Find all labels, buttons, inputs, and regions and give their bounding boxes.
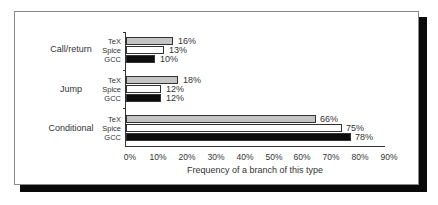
bar-call-return-spice [126,46,164,54]
value-label: 18% [183,76,201,85]
x-tick-label: 40% [230,152,260,162]
bar-chart: Call/return Jump Conditional TeX Spice G… [0,0,438,205]
bar-call-return-gcc [126,55,155,63]
x-tick-label: 90% [374,152,404,162]
series-label-gcc: GCC [81,55,121,64]
value-label: 12% [166,94,184,103]
x-tick-label: 0% [115,152,145,162]
x-tick-label: 30% [201,152,231,162]
x-tick-label: 60% [287,152,317,162]
x-tick-label: 80% [345,152,375,162]
x-tick-label: 10% [143,152,173,162]
series-label-spice: Spice [81,46,121,55]
y-axis-tick [123,108,126,109]
series-label-gcc: GCC [81,94,121,103]
x-axis-title: Frequency of a branch of this type [125,165,385,175]
series-label-spice: Spice [81,85,121,94]
bar-jump-spice [126,85,161,93]
x-tick-label: 70% [316,152,346,162]
series-label-tex: TeX [81,115,121,124]
bar-jump-gcc [126,94,161,102]
bar-call-return-tex [126,37,173,45]
value-label: 78% [355,133,373,142]
bar-conditional-spice [126,124,342,132]
value-label: 66% [320,115,338,124]
bar-jump-tex [126,76,178,84]
x-tick-label: 20% [172,152,202,162]
series-label-tex: TeX [81,76,121,85]
y-axis-tick [123,32,126,33]
bar-conditional-tex [126,115,316,123]
series-label-spice: Spice [81,124,121,133]
series-label-tex: TeX [81,37,121,46]
x-axis [125,146,385,147]
bar-conditional-gcc [126,133,351,141]
series-label-gcc: GCC [81,133,121,142]
value-label: 10% [160,55,178,64]
y-axis-tick [123,70,126,71]
x-tick-label: 50% [259,152,289,162]
